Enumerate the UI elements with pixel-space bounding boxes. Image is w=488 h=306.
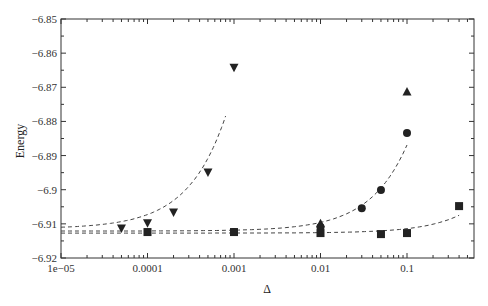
y-tick-label: −6.86 [32, 47, 58, 59]
circle-fit-curve [61, 145, 407, 231]
triangle-down-marker [203, 168, 212, 177]
square-marker [403, 229, 411, 237]
plot-border [61, 19, 474, 258]
circle-marker [377, 186, 385, 194]
y-axis-label: Energy [13, 124, 27, 158]
circle-marker [403, 129, 411, 137]
x-tick-label: 0.1 [400, 262, 414, 274]
x-axis-label: Δ [263, 282, 271, 296]
y-tick-label: −6.87 [32, 81, 58, 93]
data-points [117, 64, 463, 238]
circle-marker [358, 204, 366, 212]
triangle-down-marker [117, 224, 126, 233]
y-tick-label: −6.85 [32, 13, 58, 25]
y-tick-label: −6.9 [37, 184, 57, 196]
y-tick-label: −6.89 [32, 150, 58, 162]
square-marker [317, 229, 325, 237]
triangle-up-marker [403, 87, 412, 96]
triangle-down-fit-curve [61, 116, 226, 227]
y-axis: −6.85−6.86−6.87−6.88−6.89−6.9−6.91−6.92 [32, 13, 474, 264]
x-tick-label: 0.0001 [132, 262, 162, 274]
triangle-down-marker [230, 64, 239, 72]
triangle-down-marker [169, 208, 178, 217]
square-marker [144, 228, 152, 236]
square-marker [377, 230, 385, 238]
plot-frame [61, 19, 474, 258]
square-marker [455, 202, 463, 210]
x-tick-label: 0.001 [222, 262, 247, 274]
triangle-down-marker [143, 219, 152, 228]
y-tick-label: −6.92 [32, 252, 57, 264]
x-tick-label: 0.01 [311, 262, 330, 274]
fit-curves [61, 116, 459, 233]
y-tick-label: −6.91 [32, 218, 57, 230]
energy-vs-delta-chart: 1e−050.00010.0010.010.1 −6.85−6.86−6.87−… [0, 0, 488, 306]
y-tick-label: −6.88 [32, 115, 58, 127]
square-marker [230, 228, 238, 236]
